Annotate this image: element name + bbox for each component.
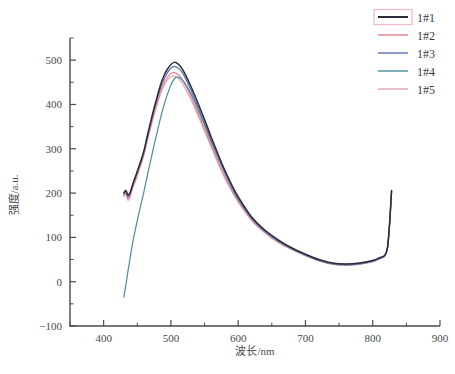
y-tick-label: 400 bbox=[46, 98, 63, 110]
series-layer bbox=[124, 62, 392, 297]
y-tick-label: 500 bbox=[46, 54, 63, 66]
axes-layer bbox=[70, 38, 440, 326]
x-tick-label: 500 bbox=[163, 332, 180, 344]
legend-label: 1#3 bbox=[417, 47, 435, 61]
x-tick-label: 600 bbox=[230, 332, 247, 344]
series-line-1-1 bbox=[124, 62, 392, 264]
chart-legend[interactable]: 1#11#21#31#41#5 bbox=[374, 10, 435, 97]
series-line-1-3 bbox=[124, 66, 392, 264]
x-tick-label: 900 bbox=[432, 332, 449, 344]
series-line-1-2 bbox=[124, 73, 392, 265]
x-tick-labels: 400500600700800900 bbox=[95, 332, 448, 344]
legend-item-1-5[interactable]: 1#5 bbox=[378, 83, 435, 97]
legend-label: 1#2 bbox=[417, 29, 435, 43]
x-axis-title: 波长/nm bbox=[235, 345, 275, 357]
axis-spines bbox=[70, 38, 440, 326]
legend-label: 1#5 bbox=[417, 83, 435, 97]
x-tick-label: 800 bbox=[364, 332, 381, 344]
y-tick-label: 200 bbox=[46, 187, 63, 199]
legend-item-1-2[interactable]: 1#2 bbox=[378, 29, 435, 43]
chart-figure: 400500600700800900 −1000100200300400500 … bbox=[0, 0, 455, 374]
legend-item-1-4[interactable]: 1#4 bbox=[378, 65, 435, 79]
chart-canvas: 400500600700800900 −1000100200300400500 … bbox=[0, 0, 455, 374]
legend-item-1-3[interactable]: 1#3 bbox=[378, 47, 435, 61]
y-tick-label: 100 bbox=[46, 231, 63, 243]
y-tick-label: −100 bbox=[39, 320, 62, 332]
legend-label: 1#1 bbox=[417, 11, 435, 25]
y-axis-title: 强度/a.u. bbox=[7, 174, 20, 215]
x-tick-label: 700 bbox=[297, 332, 314, 344]
y-tick-label: 300 bbox=[46, 143, 63, 155]
x-tick-label: 400 bbox=[95, 332, 112, 344]
ticks-layer bbox=[70, 38, 440, 326]
y-tick-label: 0 bbox=[57, 276, 63, 288]
legend-item-1-1[interactable]: 1#1 bbox=[374, 10, 435, 25]
legend-label: 1#4 bbox=[417, 65, 435, 79]
y-tick-labels: −1000100200300400500 bbox=[39, 54, 62, 332]
